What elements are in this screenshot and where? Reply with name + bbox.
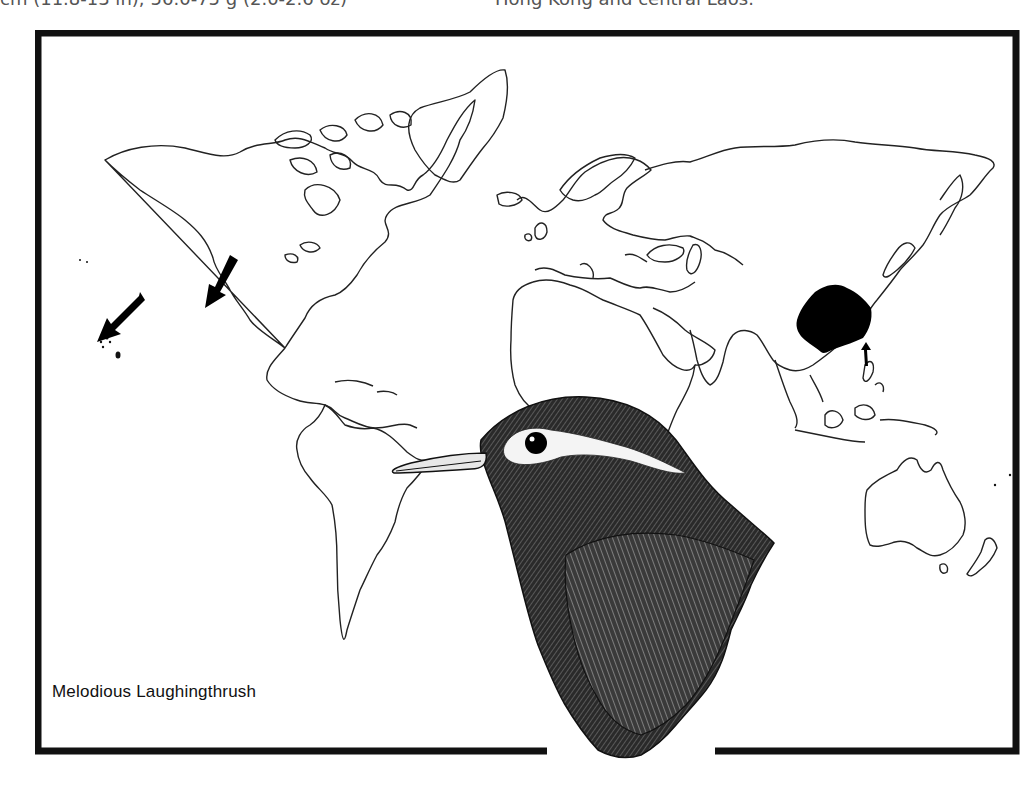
hawaii-arrow-icon xyxy=(97,292,145,342)
uk-outline xyxy=(535,223,547,239)
california-arrow-icon xyxy=(205,255,238,308)
native-range-china xyxy=(796,285,871,353)
north-america-outline xyxy=(105,100,475,428)
australia-outline xyxy=(865,458,965,556)
taiwan-arrow-icon xyxy=(861,342,871,366)
arabia-outline xyxy=(653,308,715,365)
bird-eye xyxy=(525,432,547,454)
header-fragment-measurements: cm (11.8-13 in); 56.0-75 g (2.0-2.6 oz) xyxy=(0,0,347,9)
header-fragment-distribution: Hong Kong and central Laos. xyxy=(495,0,754,9)
new-zealand-outline xyxy=(967,538,997,576)
greenland-outline xyxy=(409,70,508,182)
range-arrows xyxy=(97,255,871,366)
page-header-clipped: cm (11.8-13 in); 56.0-75 g (2.0-2.6 oz) … xyxy=(0,0,1036,12)
species-caption: Melodious Laughingthrush xyxy=(52,682,256,702)
bird-illustration xyxy=(386,385,776,770)
europe-outline xyxy=(517,158,743,266)
